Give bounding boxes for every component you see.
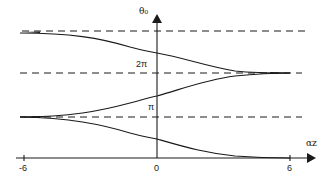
middle-curve xyxy=(20,73,290,117)
x-axis-label: αz xyxy=(306,139,317,148)
y-axis-label: θ₀ xyxy=(139,7,148,16)
y-axis-arrow-icon xyxy=(152,14,162,23)
x-tick-label-neg6: -6 xyxy=(19,164,27,173)
lower-curve xyxy=(20,117,290,158)
y-mark-2pi: 2π xyxy=(136,60,147,69)
upper-curve xyxy=(20,33,290,73)
y-mark-pi: π xyxy=(148,103,154,112)
x-tick-label-0: 0 xyxy=(154,164,159,173)
x-axis-arrow-icon xyxy=(307,153,316,163)
diagram-canvas xyxy=(0,0,333,184)
curves xyxy=(20,33,290,158)
x-tick-label-6: 6 xyxy=(287,164,292,173)
